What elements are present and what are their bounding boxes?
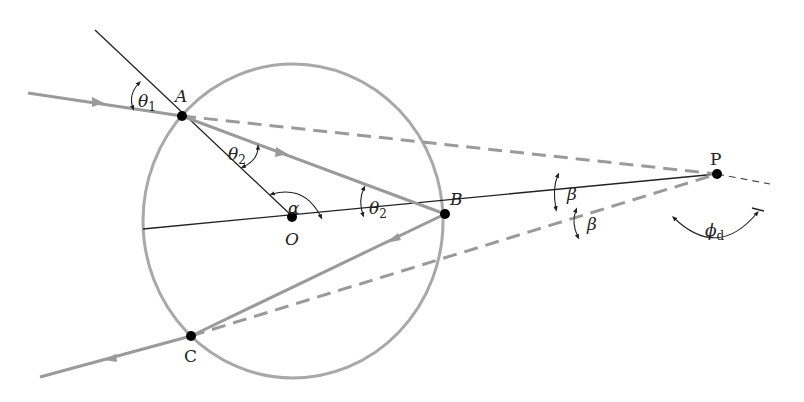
beta-arc-upper xyxy=(554,175,558,209)
label-beta-upper: β xyxy=(566,184,577,204)
rainbow-diagram: A B C O P θ1 θ2 α θ2 β β ϕd xyxy=(0,0,804,402)
ray-BC-arrow-icon xyxy=(386,233,401,243)
incoming-ray xyxy=(28,93,182,116)
label-A: A xyxy=(173,86,187,106)
label-beta-lower: β xyxy=(586,214,597,234)
label-alpha: α xyxy=(288,198,300,218)
point-C xyxy=(186,331,196,341)
point-A xyxy=(177,111,187,121)
normal-line-A xyxy=(95,30,293,217)
point-B xyxy=(440,209,450,219)
theta2-arc-B xyxy=(361,188,364,215)
reflected-ray-BC xyxy=(191,214,445,336)
label-phi-d: ϕd xyxy=(705,220,725,243)
axis-extension-dashed xyxy=(717,174,770,184)
label-O: O xyxy=(285,229,299,249)
beta-arc-lower xyxy=(574,210,578,237)
phi-d-tick xyxy=(752,208,764,211)
point-P xyxy=(712,169,722,179)
label-B: B xyxy=(449,189,463,209)
label-C: C xyxy=(184,346,197,366)
label-theta1: θ1 xyxy=(138,91,156,114)
label-theta2-B: θ2 xyxy=(369,198,387,221)
label-P: P xyxy=(710,149,721,169)
label-theta2-A: θ2 xyxy=(228,144,246,167)
